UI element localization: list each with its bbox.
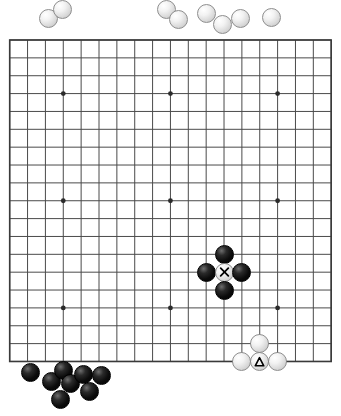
- star-point: [275, 198, 280, 203]
- star-point: [61, 306, 66, 311]
- star-point: [168, 306, 173, 311]
- star-point: [275, 306, 280, 311]
- star-point: [275, 91, 280, 96]
- captured-black-stone-1: [21, 363, 40, 382]
- captured-white-stone-8: [262, 8, 281, 27]
- board-grid[interactable]: [0, 0, 341, 416]
- black-stone-left-of-marked[interactable]: [197, 263, 216, 282]
- captured-black-stone-7: [92, 366, 111, 385]
- captured-black-stone-5: [51, 390, 70, 409]
- black-stone-below-marked[interactable]: [215, 281, 234, 300]
- star-point: [61, 91, 66, 96]
- captured-white-stone-2: [53, 0, 72, 19]
- captured-white-stone-5: [197, 4, 216, 23]
- black-stone-right-of-marked[interactable]: [232, 263, 251, 282]
- black-stone-above-marked[interactable]: [215, 245, 234, 264]
- captured-black-stone-8: [80, 382, 99, 401]
- go-board-app: [0, 0, 341, 416]
- board-layer: [0, 0, 341, 416]
- white-stone-marked-x[interactable]: [215, 263, 234, 282]
- x-mark-icon: [216, 264, 233, 281]
- triangle-mark-icon: [251, 353, 268, 370]
- star-point: [61, 198, 66, 203]
- captured-white-stone-7: [231, 9, 250, 28]
- captured-white-stone-6: [213, 15, 232, 34]
- star-point: [168, 91, 173, 96]
- star-point: [168, 198, 173, 203]
- white-stone-bottom-right[interactable]: [268, 352, 287, 371]
- captured-white-stone-4: [169, 10, 188, 29]
- captured-black-stone-6: [74, 365, 93, 384]
